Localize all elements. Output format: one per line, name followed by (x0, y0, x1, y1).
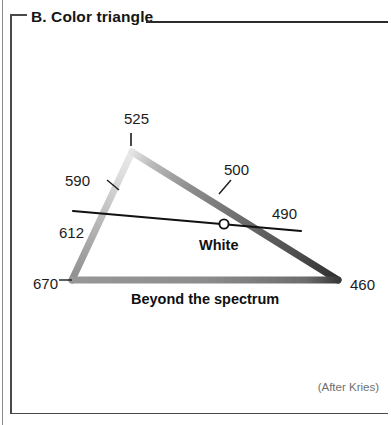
label-500: 500 (224, 161, 249, 178)
figure-panel: B. Color triangle (0, 0, 391, 425)
figure-credit: (After Kries) (318, 381, 379, 393)
complementary-axis-line (73, 211, 301, 231)
label-460: 460 (350, 276, 375, 293)
label-612: 612 (59, 224, 84, 241)
color-triangle-drawing (0, 0, 391, 425)
triangle-edge-group (72, 152, 338, 280)
leader-500 (219, 180, 231, 194)
white-point-label: White (199, 237, 238, 253)
label-490: 490 (272, 205, 297, 222)
label-670: 670 (33, 275, 58, 292)
label-590: 590 (65, 172, 90, 189)
white-point-marker (219, 219, 228, 228)
label-525: 525 (124, 110, 149, 127)
beyond-spectrum-label: Beyond the spectrum (131, 291, 279, 307)
